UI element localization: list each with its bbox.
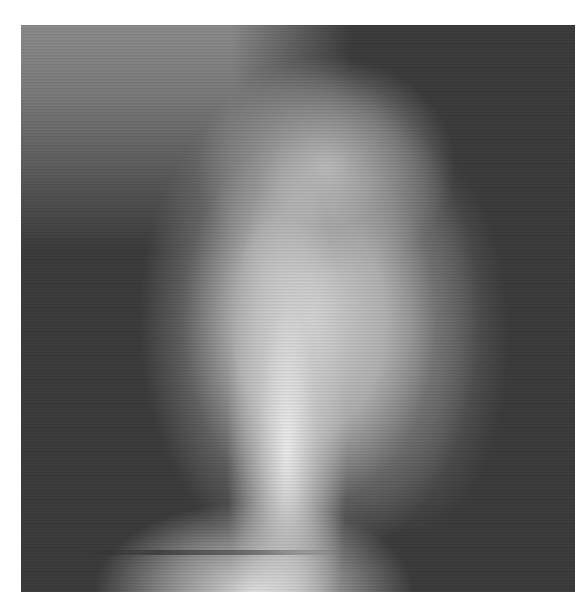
micrograph-image <box>21 25 575 592</box>
scan-line-texture <box>21 25 575 592</box>
